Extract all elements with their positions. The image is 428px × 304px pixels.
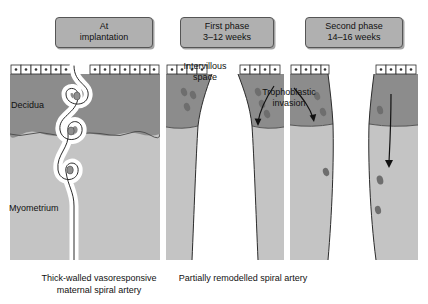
epithelial-cell	[110, 65, 120, 74]
trophoblast-cell	[68, 127, 74, 135]
epithelial-cell	[396, 65, 406, 74]
panel-title-at-implantation: At implantation	[55, 17, 153, 48]
label-decidua: Decidua	[11, 100, 44, 111]
epithelial-cell	[270, 65, 280, 74]
epithelial-cell	[321, 65, 329, 74]
epithelium-layer	[240, 65, 280, 74]
epithelial-cell	[31, 65, 41, 74]
epithelium-layer	[11, 65, 159, 74]
panel-title-second-phase: Second phase 14–16 weeks	[305, 17, 403, 48]
epithelial-cell	[301, 65, 311, 74]
panel-at-implantation	[10, 64, 160, 260]
epithelial-cell	[291, 65, 301, 74]
panel-title-line2: 3–12 weeks	[181, 32, 273, 43]
epithelial-cell	[386, 65, 396, 74]
caption-panel-2: Partially remodelled spiral artery	[148, 272, 338, 284]
epithelial-cell	[260, 65, 270, 74]
epithelial-cell	[61, 65, 71, 74]
panel-title-line2: implantation	[56, 32, 152, 43]
epithelial-cell	[150, 65, 159, 74]
panel3-right-block	[369, 65, 418, 260]
epithelial-cell	[21, 65, 31, 74]
panel-title-first-phase: First phase 3–12 weeks	[180, 17, 274, 48]
epithelial-cell	[11, 65, 21, 74]
caption-line2: maternal spiral artery	[57, 285, 142, 295]
panel-1-illustration	[10, 64, 160, 260]
epithelium-layer	[376, 65, 416, 74]
label-trophoblastic-invasion: Trophoblastic invasion	[246, 87, 332, 109]
label-myometrium: Myometrium	[9, 203, 59, 214]
label-intervillous-space: Intervillous space	[165, 61, 245, 83]
epithelial-cell	[100, 65, 110, 74]
label-line2: invasion	[272, 98, 305, 108]
epithelial-cell	[120, 65, 130, 74]
epithelial-cell	[51, 65, 61, 74]
myometrium-region	[369, 124, 418, 260]
panel-title-line1: Second phase	[306, 21, 402, 32]
label-line1: Intervillous	[183, 61, 226, 71]
epithelial-cell	[41, 65, 51, 74]
myometrium-region	[290, 124, 333, 260]
panel-title-line2: 14–16 weeks	[306, 32, 402, 43]
epithelium-layer	[291, 65, 329, 74]
epithelial-cell	[250, 65, 260, 74]
panel-title-line1: First phase	[181, 21, 273, 32]
panel-title-line1: At	[56, 21, 152, 32]
epithelial-cell	[406, 65, 416, 74]
epithelial-cell	[376, 65, 386, 74]
label-line1: Trophoblastic	[262, 87, 316, 97]
epithelial-cell	[140, 65, 150, 74]
label-line2: space	[193, 72, 217, 82]
figure-spiral-artery-remodelling: At implantation First phase 3–12 weeks S…	[0, 0, 428, 304]
caption-line1: Thick-walled vasoresponsive	[41, 273, 156, 283]
caption-line1: Partially remodelled spiral artery	[179, 273, 308, 283]
epithelial-cell	[311, 65, 321, 74]
epithelial-cell	[130, 65, 140, 74]
trophoblast-cell	[74, 92, 80, 100]
decidua-region	[369, 74, 418, 126]
epithelial-cell	[90, 65, 100, 74]
trophoblast-cell	[67, 166, 73, 174]
panel2-left-block	[166, 65, 212, 260]
